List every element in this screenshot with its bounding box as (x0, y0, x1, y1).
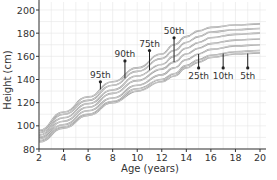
annotation-dot (148, 49, 151, 52)
y-tick-label: 180 (17, 28, 35, 39)
annotation-dot (222, 66, 225, 69)
chart-svg: 95th90th75th50th25th10th5th 246810121416… (0, 0, 277, 180)
x-tick-label: 2 (36, 152, 42, 163)
growth-chart: 95th90th75th50th25th10th5th 246810121416… (0, 0, 277, 180)
y-tick-label: 100 (17, 120, 35, 131)
annotation-dot (197, 66, 200, 69)
x-tick-label: 12 (156, 152, 168, 163)
y-tick-label: 200 (17, 5, 35, 16)
x-tick-label: 16 (205, 152, 217, 163)
annotation-dot (172, 36, 175, 39)
annotation-label-10th: 10th (213, 71, 234, 81)
y-tick-label: 140 (17, 74, 35, 85)
annotation-label-90th: 90th (115, 49, 136, 59)
annotation-label-75th: 75th (139, 39, 160, 49)
annotation-label-25th: 25th (188, 71, 209, 81)
axes: 246810121416182080100120140160180200 (17, 0, 266, 163)
x-tick-label: 4 (61, 152, 67, 163)
y-axis-label: Height (cm) (2, 50, 13, 109)
x-tick-label: 18 (229, 152, 241, 163)
x-tick-label: 8 (110, 152, 116, 163)
x-axis-label: Age (years) (121, 163, 179, 174)
y-tick-label: 80 (23, 144, 35, 155)
annotation-dot (99, 80, 102, 83)
y-tick-label: 160 (17, 51, 35, 62)
x-tick-label: 14 (180, 152, 192, 163)
x-tick-label: 10 (131, 152, 143, 163)
annotation-dot (246, 66, 249, 69)
y-tick-label: 120 (17, 97, 35, 108)
x-tick-label: 6 (85, 152, 91, 163)
annotation-label-95th: 95th (90, 70, 111, 80)
annotation-label-50th: 50th (164, 26, 185, 36)
annotation-label-5th: 5th (240, 71, 255, 81)
annotation-dot (123, 59, 126, 62)
x-tick-label: 20 (254, 152, 266, 163)
